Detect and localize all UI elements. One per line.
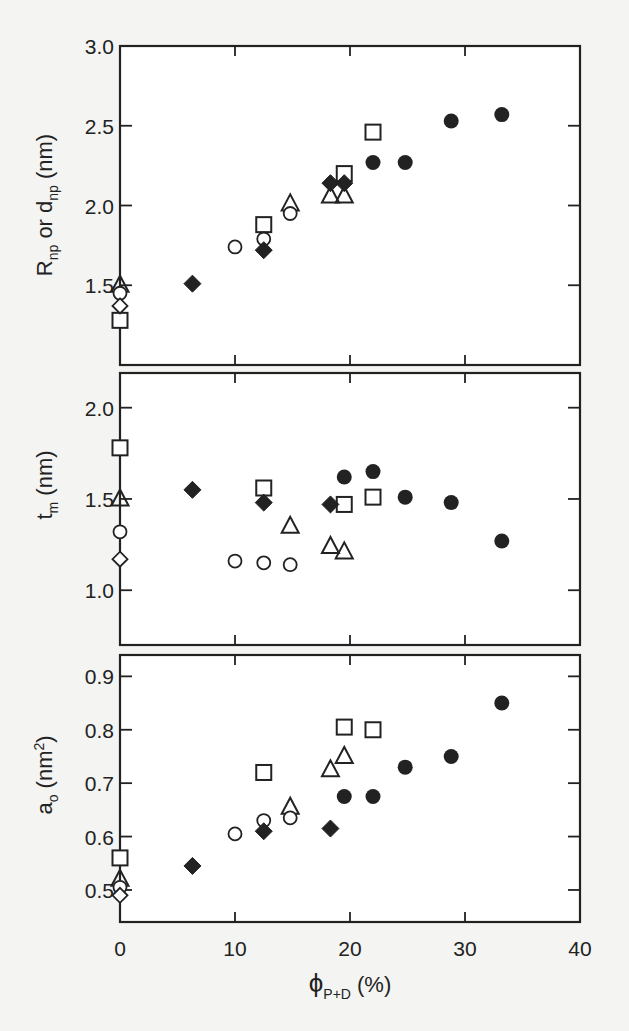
- data-point: [229, 555, 242, 568]
- data-point: [256, 217, 271, 232]
- data-point: [366, 464, 381, 479]
- panel-middle-tm: 1.01.52.0: [85, 373, 580, 645]
- y-tick-label: 0.9: [85, 665, 114, 688]
- x-tick-label: 20: [338, 937, 361, 960]
- y-tick-label: 0.6: [85, 826, 114, 849]
- data-point: [366, 155, 381, 170]
- data-point: [366, 789, 381, 804]
- data-point: [229, 827, 242, 840]
- y-tick-label: 1.5: [85, 274, 114, 297]
- data-point: [398, 155, 413, 170]
- x-tick-label: 0: [114, 937, 126, 960]
- y-axis-label-bottom: ao (nm2): [31, 735, 61, 814]
- y-tick-label: 2.0: [85, 397, 114, 420]
- data-point: [494, 533, 509, 548]
- data-point: [256, 481, 271, 496]
- data-point: [494, 696, 509, 711]
- panel-top-rnp: 1.52.02.53.0: [85, 35, 580, 365]
- y-tick-label: 3.0: [85, 35, 114, 58]
- x-tick-label: 30: [453, 937, 476, 960]
- data-point: [284, 558, 297, 571]
- data-point: [113, 313, 128, 328]
- data-point: [113, 440, 128, 455]
- y-tick-label: 2.5: [85, 115, 114, 138]
- y-axis-label-middle: tm (nm): [32, 450, 61, 519]
- data-point: [366, 722, 381, 737]
- data-point: [337, 470, 352, 485]
- data-point: [113, 850, 128, 865]
- data-point: [444, 495, 459, 510]
- x-tick-label: 40: [568, 937, 591, 960]
- data-point: [444, 113, 459, 128]
- data-point: [337, 720, 352, 735]
- panel-bottom-ao: 0.50.60.70.80.9010203040: [85, 655, 592, 960]
- data-point: [229, 240, 242, 253]
- data-point: [284, 811, 297, 824]
- data-point: [284, 207, 297, 220]
- plot-frame: [120, 655, 580, 922]
- y-tick-label: 1.0: [85, 579, 114, 602]
- x-axis-label: ϕP+D (%): [309, 968, 392, 1002]
- y-axis-label-top: Rnp or dnp (nm): [32, 134, 61, 276]
- data-point: [398, 490, 413, 505]
- data-point: [257, 556, 270, 569]
- y-tick-label: 1.5: [85, 488, 114, 511]
- y-tick-label: 0.5: [85, 879, 114, 902]
- figure: 1.52.02.53.0 1.01.52.0 0.50.60.70.80.901…: [0, 0, 629, 1031]
- data-point: [366, 490, 381, 505]
- data-point: [114, 525, 127, 538]
- data-point: [398, 760, 413, 775]
- data-point: [337, 789, 352, 804]
- data-point: [366, 125, 381, 140]
- plot-frame: [120, 46, 580, 365]
- data-point: [494, 107, 509, 122]
- x-tick-label: 10: [223, 937, 246, 960]
- y-tick-label: 0.7: [85, 772, 114, 795]
- data-point: [256, 765, 271, 780]
- y-tick-label: 0.8: [85, 719, 114, 742]
- y-tick-label: 2.0: [85, 195, 114, 218]
- data-point: [444, 749, 459, 764]
